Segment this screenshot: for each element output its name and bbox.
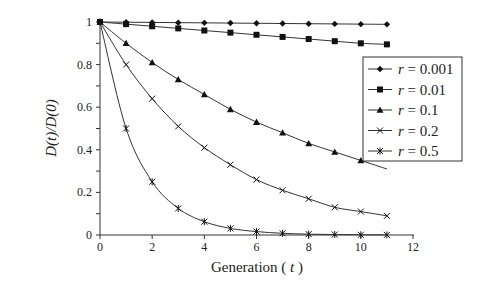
series-x bbox=[97, 19, 390, 219]
series-diamond bbox=[97, 19, 390, 28]
series-star bbox=[97, 19, 390, 239]
series-triangle bbox=[97, 19, 387, 169]
x-axis-label-var: t bbox=[290, 259, 295, 275]
x-tick-label: 0 bbox=[97, 240, 103, 254]
chart: 00.20.40.60.81 024681012 D(t)/D(0) Gener… bbox=[0, 0, 483, 290]
y-tick-label: 1 bbox=[86, 15, 92, 29]
x-ticks: 024681012 bbox=[97, 235, 419, 254]
legend: r = 0.001r = 0.01r = 0.1r = 0.2r = 0.5 bbox=[363, 57, 462, 161]
x-tick-label: 12 bbox=[407, 240, 419, 254]
y-tick-label: 0.4 bbox=[77, 143, 92, 157]
y-tick-label: 0 bbox=[86, 228, 92, 242]
legend-label: r = 0.1 bbox=[398, 102, 439, 118]
legend-label: r = 0.01 bbox=[398, 82, 446, 98]
legend-label: r = 0.2 bbox=[398, 123, 439, 139]
legend-label: r = 0.001 bbox=[398, 61, 454, 77]
y-axis-label: D(t)/D(0) bbox=[43, 99, 60, 157]
legend-label: r = 0.5 bbox=[398, 143, 439, 159]
x-axis-label: Generation ( t ) bbox=[211, 259, 303, 276]
plot-series bbox=[97, 19, 391, 239]
x-tick-label: 4 bbox=[201, 240, 207, 254]
y-tick-label: 0.6 bbox=[77, 100, 92, 114]
x-tick-label: 6 bbox=[254, 240, 260, 254]
y-tick-label: 0.2 bbox=[77, 185, 92, 199]
y-ticks: 00.20.40.60.81 bbox=[77, 15, 100, 242]
x-tick-label: 8 bbox=[306, 240, 312, 254]
x-axis-label-main: Generation ( bbox=[211, 259, 286, 276]
x-tick-label: 10 bbox=[355, 240, 367, 254]
x-axis-label-close: ) bbox=[298, 259, 303, 276]
x-tick-label: 2 bbox=[149, 240, 155, 254]
y-tick-label: 0.8 bbox=[77, 58, 92, 72]
